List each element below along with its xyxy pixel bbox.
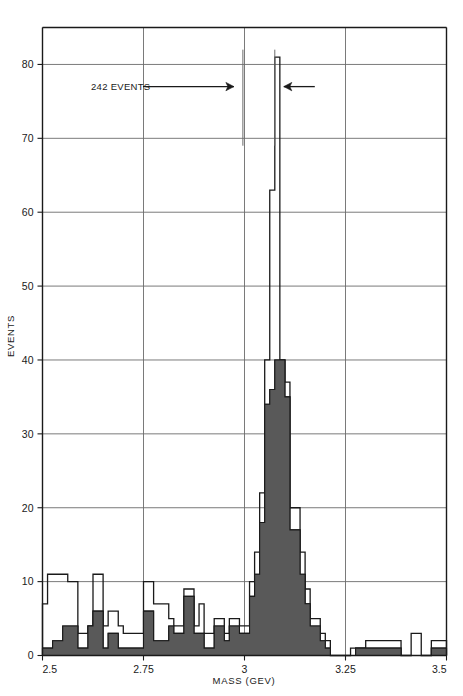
x-axis-label: MASS (GEV)	[213, 675, 276, 686]
y-tick-label: 0	[28, 649, 34, 661]
x-tick-label: 3.5	[432, 663, 447, 675]
x-tick-label: 3.25	[335, 663, 356, 675]
y-tick-label: 20	[22, 502, 34, 514]
annotation-events-label: 242 EVENTS	[91, 81, 151, 92]
x-tick-label: 2.5	[43, 663, 58, 675]
y-tick-label: 80	[22, 58, 34, 70]
y-tick-label: 30	[22, 428, 34, 440]
y-axis-label: EVENTS	[5, 315, 16, 357]
chart-background	[0, 0, 463, 696]
mass-spectrum-chart: 01020304050607080 2.52.7533.253.5 242 EV…	[0, 0, 463, 696]
y-tick-label: 10	[22, 575, 34, 587]
histogram-figure: 01020304050607080 2.52.7533.253.5 242 EV…	[0, 0, 463, 696]
y-tick-label: 40	[22, 354, 34, 366]
y-tick-label: 70	[22, 132, 34, 144]
y-tick-label: 50	[22, 280, 34, 292]
y-tick-label: 60	[22, 206, 34, 218]
x-tick-label: 3	[242, 663, 248, 675]
x-tick-label: 2.75	[133, 663, 154, 675]
